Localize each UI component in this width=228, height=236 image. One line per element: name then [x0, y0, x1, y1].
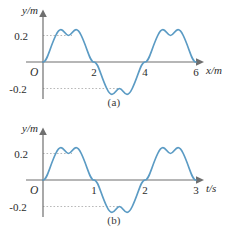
- x-tick-label-b-1: 2: [142, 184, 148, 196]
- caption-a: (a): [0, 96, 228, 108]
- x-axis-label-a: x/m: [205, 64, 222, 76]
- origin-label-b: O: [30, 184, 39, 196]
- y-tick-label-a-1: -0.2: [9, 83, 26, 95]
- chart-panel-a: y/m x/m O 0.2 -0.2 2 4 6 (a): [0, 0, 228, 118]
- caption-b: (b): [0, 214, 228, 226]
- x-axis-label-b: t/s: [206, 182, 216, 194]
- origin-label-a: O: [30, 66, 39, 78]
- chart-panel-b: y/m t/s O 0.2 -0.2 1 2 3 (b): [0, 118, 228, 236]
- x-tick-label-a-0: 2: [91, 66, 97, 78]
- y-axis-label-a: y/m: [21, 4, 38, 16]
- x-tick-label-a-1: 4: [142, 66, 148, 78]
- x-tick-label-b-2: 3: [193, 184, 199, 196]
- y-tick-label-a-0: 0.2: [14, 30, 28, 42]
- y-axis-arrow-a: [39, 10, 47, 18]
- x-tick-label-a-2: 6: [193, 66, 199, 78]
- x-tick-label-b-0: 1: [91, 184, 97, 196]
- x-axis-arrow-b: [196, 176, 204, 184]
- y-axis-label-b: y/m: [21, 122, 38, 134]
- y-axis-arrow-b: [39, 128, 47, 136]
- y-tick-label-b-0: 0.2: [14, 148, 28, 160]
- physics-wave-figure: y/m x/m O 0.2 -0.2 2 4 6 (a): [0, 0, 228, 236]
- y-tick-label-b-1: -0.2: [9, 201, 26, 213]
- x-axis-arrow-a: [196, 58, 204, 66]
